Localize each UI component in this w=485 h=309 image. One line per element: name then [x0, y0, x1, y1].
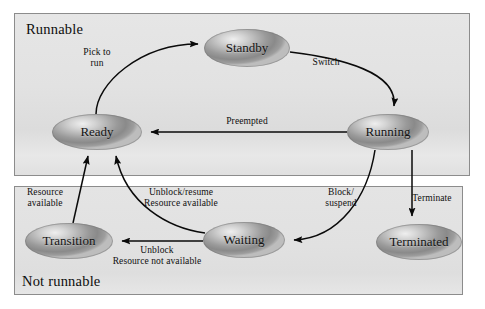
- diagram-canvas: Runnable Not runnable Standby: [0, 0, 485, 309]
- state-node-running[interactable]: Running: [347, 114, 429, 150]
- state-node-terminated[interactable]: Terminated: [376, 224, 462, 260]
- edge-label-switch: Switch: [300, 57, 352, 68]
- edge-label-unblock-resume-resource-available: Unblock/resume Resource available: [122, 187, 240, 209]
- state-node-running-label: Running: [366, 124, 411, 140]
- state-node-ready-label: Ready: [80, 124, 113, 140]
- state-node-terminated-label: Terminated: [389, 234, 448, 250]
- group-runnable-label: Runnable: [26, 21, 83, 38]
- state-node-ready[interactable]: Ready: [52, 114, 142, 150]
- state-node-standby-label: Standby: [226, 40, 269, 56]
- edge-label-resource-available: Resource available: [14, 187, 76, 209]
- state-node-waiting-label: Waiting: [224, 232, 265, 248]
- edge-label-preempted: Preempted: [212, 116, 282, 127]
- state-node-transition-label: Transition: [43, 233, 96, 249]
- edge-label-block-suspend: Block/ suspend: [312, 187, 370, 209]
- edge-label-terminate: Terminate: [401, 193, 463, 204]
- edge-label-pick-to-run: Pick to run: [66, 47, 128, 69]
- group-not-runnable-label: Not runnable: [22, 273, 101, 290]
- edge-label-unblock-resource-not-available: Unblock Resource not available: [96, 245, 218, 267]
- state-node-standby[interactable]: Standby: [204, 29, 290, 67]
